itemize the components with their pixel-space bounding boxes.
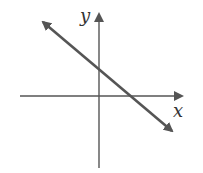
graph-svg: y x (0, 0, 203, 173)
graphed-line (43, 22, 172, 131)
x-axis-label: x (173, 100, 183, 121)
coordinate-plane-diagram: y x (0, 0, 203, 173)
y-axis-label: y (79, 5, 91, 26)
